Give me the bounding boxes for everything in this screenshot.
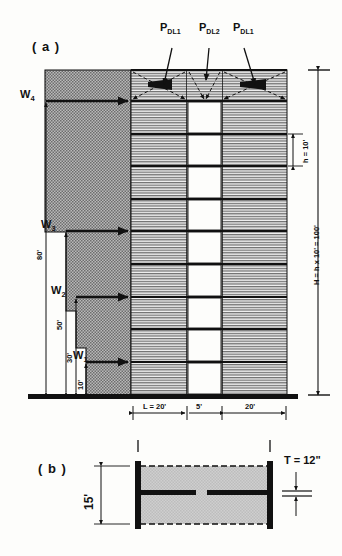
slab-height-dimension — [94, 466, 130, 524]
slab-height-label: 15' — [83, 494, 95, 510]
wind-load-label-w4: W4 — [20, 89, 35, 103]
panel-a-tag: ( a ) — [32, 40, 60, 53]
wind-pressure-block — [45, 70, 131, 395]
slab-thickness-label: T = 12" — [284, 455, 321, 466]
point-load-label-3: PDL1 — [233, 22, 254, 35]
vertical-dimension-80: 80' — [36, 250, 44, 260]
wind-load-label-w1: W1 — [73, 350, 88, 364]
wind-load-label-w2: W2 — [51, 285, 66, 299]
ground-line — [28, 394, 298, 399]
story-height-label: h = 10' — [302, 140, 310, 163]
middle-core-hatch-top — [187, 70, 222, 101]
vertical-dimension-50: 50' — [56, 320, 64, 330]
bay-dimension-left: L = 20' — [143, 403, 166, 411]
bay-dimension-core: 5' — [196, 403, 202, 411]
left-bay — [131, 70, 187, 395]
vertical-dimension-30: 30' — [66, 353, 74, 363]
core-column-openings — [188, 102, 221, 394]
panel-a-geometry — [28, 48, 330, 420]
panel-b-geometry — [94, 440, 312, 529]
wind-load-label-w3: W3 — [41, 219, 56, 233]
vertical-dimension-10: 10' — [77, 380, 85, 390]
point-load-label-1: PDL1 — [160, 22, 181, 35]
right-bay — [222, 70, 287, 395]
point-load-label-2: PDL2 — [199, 22, 220, 35]
column-centerline-tick — [138, 440, 270, 452]
bay-dimension-right: 20' — [245, 403, 255, 411]
panel-b-tag: ( b ) — [38, 462, 67, 475]
thickness-detail — [282, 472, 312, 516]
structural-frame-figure: ( a ) PDL1 PDL2 PDL1 W4 W3 W2 W1 80' 50'… — [0, 0, 342, 556]
total-height-label: H = h x 10' = 100' — [313, 225, 321, 285]
